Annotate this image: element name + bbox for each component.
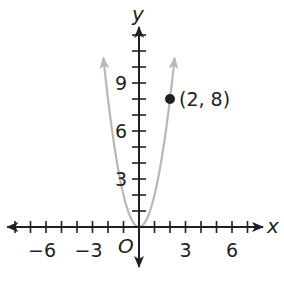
x-tick-label: −3 — [74, 239, 102, 261]
y-tick-label: 9 — [115, 72, 127, 94]
y-axis-label: y — [131, 2, 145, 26]
y-tick-label: 3 — [115, 168, 127, 190]
y-tick-label: 6 — [115, 120, 127, 142]
coordinate-plane: −6−336 369 x y O (2, 8) — [0, 0, 284, 295]
axis-ticks — [15, 35, 248, 233]
point-label: (2, 8) — [179, 88, 230, 110]
y-tick-labels: 369 — [115, 72, 127, 190]
x-axis-label: x — [266, 214, 279, 238]
data-point — [165, 94, 175, 104]
x-tick-label: 6 — [226, 239, 238, 261]
origin-label: O — [118, 234, 134, 258]
x-tick-label: 3 — [179, 239, 191, 261]
plotted-points: (2, 8) — [165, 88, 230, 110]
x-tick-label: −6 — [28, 239, 56, 261]
